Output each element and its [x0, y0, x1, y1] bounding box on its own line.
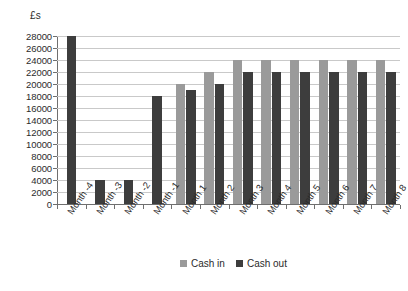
legend-item[interactable]: Cash in	[180, 258, 225, 269]
y-axis-tick-label: 6000	[4, 163, 52, 174]
bar-group	[143, 36, 172, 204]
bar-cash-in	[233, 60, 243, 204]
bar-cash-in	[204, 72, 214, 204]
x-axis-tick	[200, 205, 201, 209]
y-axis-tick	[53, 180, 57, 181]
bar-cash-out	[67, 36, 77, 204]
legend-label: Cash in	[191, 258, 225, 269]
y-axis-tick-label: 4000	[4, 175, 52, 186]
x-axis-tick	[314, 205, 315, 209]
x-axis-tick	[400, 205, 401, 209]
bar-group	[371, 36, 400, 204]
bar-cash-out	[272, 72, 282, 204]
y-axis-tick-label: 12000	[4, 127, 52, 138]
y-axis-tick-label: 26000	[4, 43, 52, 54]
y-axis-title: £s	[30, 10, 41, 21]
bar-cash-in	[376, 60, 386, 204]
bar-cash-in	[261, 60, 271, 204]
x-axis-tick-labels: Month -4Month -3Month -2Month -1Month 1M…	[0, 204, 403, 264]
y-axis-tick	[53, 60, 57, 61]
bar-cash-out	[152, 96, 162, 204]
x-axis-tick	[114, 205, 115, 209]
x-axis-tick	[229, 205, 230, 209]
x-axis-tick	[57, 205, 58, 209]
bar-cash-out	[386, 72, 396, 204]
bar-cash-out	[186, 90, 196, 204]
bar-group	[286, 36, 315, 204]
y-axis-tick-label: 22000	[4, 67, 52, 78]
y-axis-tick	[53, 192, 57, 193]
bar-cash-out	[215, 84, 225, 204]
bar-cash-out	[243, 72, 253, 204]
bar-cash-out	[358, 72, 368, 204]
y-axis-tick-label: 10000	[4, 139, 52, 150]
legend-swatch-icon	[236, 260, 243, 267]
y-axis-tick-label: 16000	[4, 103, 52, 114]
bar-group	[257, 36, 286, 204]
chart-legend: Cash inCash out	[176, 256, 291, 271]
y-axis-tick	[53, 156, 57, 157]
y-axis-tick	[53, 84, 57, 85]
legend-swatch-icon	[180, 260, 187, 267]
y-axis-tick-labels: 0200040006000800010000120001400016000180…	[0, 36, 52, 204]
bar-group	[57, 36, 86, 204]
bar-group	[343, 36, 372, 204]
bar-group	[229, 36, 258, 204]
x-axis-tick	[257, 205, 258, 209]
bar-cash-out	[329, 72, 339, 204]
bar-group	[114, 36, 143, 204]
y-axis-tick-label: 24000	[4, 55, 52, 66]
y-axis-tick-label: 2000	[4, 187, 52, 198]
bar-cash-in	[347, 60, 357, 204]
bar-group	[314, 36, 343, 204]
y-axis-tick	[53, 168, 57, 169]
legend-item[interactable]: Cash out	[236, 258, 287, 269]
bar-cash-out	[300, 72, 310, 204]
x-axis-tick	[86, 205, 87, 209]
y-axis-tick	[53, 36, 57, 37]
bars-layer	[57, 36, 400, 204]
x-axis-tick	[143, 205, 144, 209]
plot-area	[57, 36, 400, 204]
bar-group	[86, 36, 115, 204]
y-axis-tick-label: 14000	[4, 115, 52, 126]
bar-group	[200, 36, 229, 204]
y-axis-tick-label: 8000	[4, 151, 52, 162]
x-axis-tick	[171, 205, 172, 209]
y-axis-tick	[53, 120, 57, 121]
y-axis-tick-label: 28000	[4, 31, 52, 42]
y-axis-tick-label: 20000	[4, 79, 52, 90]
y-axis-tick	[53, 132, 57, 133]
bar-cash-in	[290, 60, 300, 204]
y-axis-tick	[53, 72, 57, 73]
y-axis-tick	[53, 144, 57, 145]
x-axis-tick	[286, 205, 287, 209]
bar-cash-in	[319, 60, 329, 204]
y-axis-tick	[53, 96, 57, 97]
bar-group	[171, 36, 200, 204]
y-axis-tick	[53, 108, 57, 109]
x-axis-tick	[343, 205, 344, 209]
y-axis-tick-label: 18000	[4, 91, 52, 102]
y-axis-tick	[53, 48, 57, 49]
legend-label: Cash out	[247, 258, 287, 269]
x-axis-tick	[371, 205, 372, 209]
